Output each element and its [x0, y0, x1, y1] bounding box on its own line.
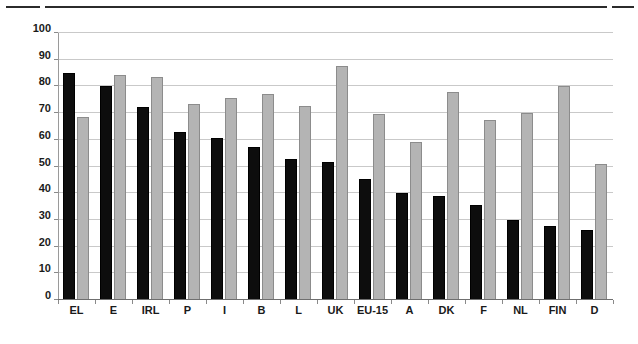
y-tick-label-10: 10	[39, 263, 51, 274]
y-tick-label-20: 20	[39, 236, 51, 247]
bar-B-series-2	[262, 94, 274, 300]
y-tick-label-90: 90	[39, 49, 51, 60]
bar-EL-series-1	[63, 73, 75, 300]
bar-F-series-1	[470, 205, 482, 300]
bar-group	[465, 33, 502, 300]
x-axis-label-FIN: FIN	[549, 305, 567, 316]
bar-I-series-2	[225, 98, 237, 300]
bar-UK-series-1	[322, 162, 334, 300]
x-tick-mark	[206, 300, 207, 304]
x-tick-mark	[428, 300, 429, 304]
x-axis-label-F: F	[480, 305, 487, 316]
bar-IRL-series-2	[151, 77, 163, 300]
bar-B-series-1	[248, 147, 260, 300]
bar-EU-15-series-2	[373, 114, 385, 300]
bar-group	[280, 33, 317, 300]
x-tick-mark	[280, 300, 281, 304]
bar-group	[58, 33, 95, 300]
bar-group	[428, 33, 465, 300]
y-tick-label-60: 60	[39, 129, 51, 140]
bar-NL-series-2	[521, 113, 533, 300]
x-axis-label-NL: NL	[513, 305, 528, 316]
x-axis-label-UK: UK	[328, 305, 344, 316]
bar-FIN-series-1	[544, 226, 556, 300]
x-tick-mark-end	[613, 300, 614, 304]
bar-group	[391, 33, 428, 300]
x-tick-mark	[576, 300, 577, 304]
bar-group	[95, 33, 132, 300]
bar-group	[206, 33, 243, 300]
bar-L-series-1	[285, 159, 297, 300]
x-tick-mark	[95, 300, 96, 304]
y-tick-label-50: 50	[39, 156, 51, 167]
bar-DK-series-1	[433, 196, 445, 300]
x-axis-label-E: E	[110, 305, 117, 316]
bar-UK-series-2	[336, 66, 348, 300]
x-tick-mark	[502, 300, 503, 304]
x-axis-line	[58, 299, 613, 300]
x-tick-mark	[354, 300, 355, 304]
x-axis-label-A: A	[406, 305, 414, 316]
plot-area: 0102030405060708090100	[58, 33, 613, 300]
bar-IRL-series-1	[137, 107, 149, 300]
bar-group	[539, 33, 576, 300]
x-axis-label-EU-15: EU-15	[357, 305, 388, 316]
bar-group	[169, 33, 206, 300]
x-axis-label-D: D	[591, 305, 599, 316]
bar-FIN-series-2	[558, 86, 570, 300]
x-tick-mark	[539, 300, 540, 304]
top-rule-segment-middle	[45, 6, 607, 8]
bar-EL-series-2	[77, 117, 89, 300]
bar-P-series-2	[188, 104, 200, 300]
x-tick-mark	[465, 300, 466, 304]
bar-group	[243, 33, 280, 300]
y-tick-label-0: 0	[45, 290, 51, 301]
x-tick-mark	[132, 300, 133, 304]
x-tick-mark	[317, 300, 318, 304]
bar-P-series-1	[174, 132, 186, 300]
bar-D-series-1	[581, 230, 593, 300]
x-tick-mark	[169, 300, 170, 304]
x-tick-mark	[243, 300, 244, 304]
bar-D-series-2	[595, 164, 607, 300]
bar-group	[502, 33, 539, 300]
bar-L-series-2	[299, 106, 311, 300]
bar-A-series-2	[410, 142, 422, 300]
top-rule-segment-left	[6, 6, 40, 8]
x-axis-label-DK: DK	[439, 305, 455, 316]
bar-EU-15-series-1	[359, 179, 371, 300]
bar-group	[576, 33, 613, 300]
bar-DK-series-2	[447, 92, 459, 300]
x-axis-label-L: L	[295, 305, 302, 316]
x-tick-mark	[58, 300, 59, 304]
chart-figure: 0102030405060708090100 ELEIRLPIBLUKEU-15…	[0, 0, 638, 344]
top-rule-segment-right	[612, 6, 634, 8]
x-tick-mark	[391, 300, 392, 304]
y-tick-label-40: 40	[39, 183, 51, 194]
bar-F-series-2	[484, 120, 496, 300]
bar-I-series-1	[211, 138, 223, 300]
x-axis-label-P: P	[184, 305, 191, 316]
bar-E-series-2	[114, 75, 126, 300]
y-tick-label-80: 80	[39, 76, 51, 87]
y-tick-label-70: 70	[39, 103, 51, 114]
bar-group	[354, 33, 391, 300]
y-tick-label-100: 100	[33, 23, 51, 34]
x-axis-label-B: B	[258, 305, 266, 316]
x-axis-label-IRL: IRL	[142, 305, 160, 316]
bar-E-series-1	[100, 86, 112, 300]
x-axis-label-EL: EL	[69, 305, 83, 316]
bar-NL-series-1	[507, 220, 519, 300]
bar-group	[317, 33, 354, 300]
bar-group	[132, 33, 169, 300]
x-axis-label-I: I	[223, 305, 226, 316]
bar-series-container	[58, 33, 613, 300]
bar-A-series-1	[396, 193, 408, 300]
y-tick-label-30: 30	[39, 209, 51, 220]
